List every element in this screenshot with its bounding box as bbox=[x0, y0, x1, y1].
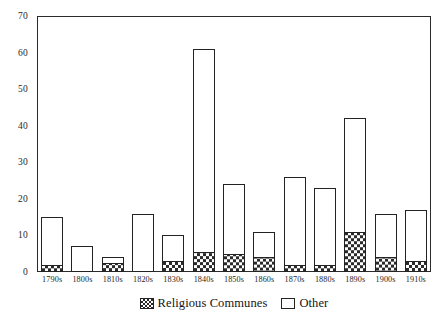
bar-segment-religious-communes bbox=[405, 261, 427, 272]
x-tick-label: 1910s bbox=[406, 275, 426, 284]
x-tick-label: 1890s bbox=[345, 275, 365, 284]
bar-segment-other bbox=[193, 49, 215, 272]
y-tick-label: 30 bbox=[18, 157, 28, 167]
bar-stack bbox=[284, 177, 306, 272]
white-swatch-icon bbox=[281, 298, 295, 309]
bar-segment-other bbox=[314, 188, 336, 272]
checkered-swatch-icon bbox=[140, 298, 154, 309]
bar-segment-religious-communes bbox=[253, 257, 275, 272]
bar-group-1860s bbox=[253, 16, 275, 272]
bar-stack bbox=[344, 118, 366, 272]
x-axis: 1790s1800s1810s1820s1830s1840s1850s1860s… bbox=[37, 275, 431, 291]
x-tick-label: 1790s bbox=[42, 275, 62, 284]
bar-stack bbox=[132, 214, 154, 273]
legend-item-other: Other bbox=[281, 296, 328, 311]
bar-segment-other bbox=[284, 177, 306, 272]
y-tick-label: 50 bbox=[18, 84, 28, 94]
x-tick-label: 1900s bbox=[376, 275, 396, 284]
bar-segment-religious-communes bbox=[41, 265, 63, 272]
bar-group-1850s bbox=[223, 16, 245, 272]
x-tick-label: 1850s bbox=[224, 275, 244, 284]
bar-group-1790s bbox=[41, 16, 63, 272]
bar-segment-religious-communes bbox=[344, 232, 366, 272]
bar-stack bbox=[162, 235, 184, 272]
bar-segment-religious-communes bbox=[102, 263, 124, 272]
bar-stack bbox=[41, 217, 63, 272]
y-tick-label: 40 bbox=[18, 121, 28, 131]
bar-segment-religious-communes bbox=[162, 261, 184, 272]
bar-group-1910s bbox=[405, 16, 427, 272]
legend-label: Other bbox=[299, 296, 328, 311]
x-tick-label: 1820s bbox=[133, 275, 153, 284]
y-tick-label: 60 bbox=[18, 48, 28, 58]
x-tick-label: 1870s bbox=[285, 275, 305, 284]
bars-layer bbox=[37, 16, 431, 272]
y-tick-label: 0 bbox=[23, 267, 28, 277]
y-tick-label: 70 bbox=[18, 11, 28, 21]
y-axis: 70 60 50 40 30 20 10 0 bbox=[0, 0, 37, 272]
bar-stack bbox=[71, 246, 93, 272]
x-tick-label: 1810s bbox=[103, 275, 123, 284]
bar-stack bbox=[193, 49, 215, 272]
x-tick-label: 1840s bbox=[194, 275, 214, 284]
bar-segment-religious-communes bbox=[193, 252, 215, 272]
bar-segment-religious-communes bbox=[314, 265, 336, 272]
bar-group-1900s bbox=[375, 16, 397, 272]
bar-group-1870s bbox=[284, 16, 306, 272]
stacked-bar-chart: 70 60 50 40 30 20 10 0 1790s1800s1810s18… bbox=[0, 0, 440, 318]
legend-item-religious-communes: Religious Communes bbox=[140, 296, 268, 311]
bar-stack bbox=[314, 188, 336, 272]
x-tick-label: 1880s bbox=[315, 275, 335, 284]
bar-segment-religious-communes bbox=[375, 257, 397, 272]
bar-group-1820s bbox=[132, 16, 154, 272]
bar-segment-religious-communes bbox=[284, 265, 306, 272]
y-tick-label: 10 bbox=[18, 230, 28, 240]
x-tick-label: 1860s bbox=[254, 275, 274, 284]
bar-stack bbox=[223, 184, 245, 272]
bar-stack bbox=[375, 214, 397, 273]
y-tick-label: 20 bbox=[18, 194, 28, 204]
bar-segment-other bbox=[71, 246, 93, 272]
bar-stack bbox=[253, 232, 275, 272]
bar-group-1880s bbox=[314, 16, 336, 272]
bar-group-1800s bbox=[71, 16, 93, 272]
x-tick-label: 1800s bbox=[72, 275, 92, 284]
legend: Religious Communes Other bbox=[37, 292, 431, 314]
bar-segment-religious-communes bbox=[223, 254, 245, 272]
bar-group-1890s bbox=[344, 16, 366, 272]
bar-stack bbox=[102, 257, 124, 272]
bar-group-1840s bbox=[193, 16, 215, 272]
x-tick-label: 1830s bbox=[163, 275, 183, 284]
bar-group-1830s bbox=[162, 16, 184, 272]
bar-segment-other bbox=[132, 214, 154, 273]
bar-stack bbox=[405, 210, 427, 272]
legend-label: Religious Communes bbox=[158, 296, 268, 311]
bar-group-1810s bbox=[102, 16, 124, 272]
